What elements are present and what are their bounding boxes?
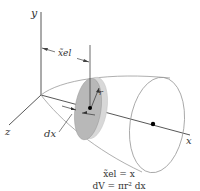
solid-end-ellipse [124, 74, 191, 177]
xel-label: x̃el [58, 48, 71, 58]
y-axis-label: y [30, 7, 38, 20]
volume-disk-diagram: x̃el r dx y x z x̃el = x dV = πr² dx [0, 0, 200, 191]
x-axis [41, 95, 190, 135]
z-axis-label: z [4, 126, 11, 137]
arrowhead-right-icon [83, 59, 89, 62]
equation-dv: dV = πr² dx [92, 181, 145, 191]
x-axis-label: x [186, 135, 192, 146]
solid-centroid-dot [151, 122, 155, 126]
z-axis [9, 95, 41, 125]
disk-centroid-dot [88, 106, 92, 110]
arrowhead-left-icon [42, 48, 48, 51]
equation-xel: x̃el = x [103, 169, 135, 179]
dx-label: dx [44, 128, 56, 139]
